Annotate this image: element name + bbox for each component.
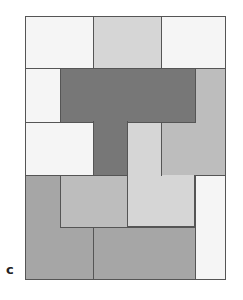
block-dark-t-stem <box>93 121 128 176</box>
block-dark-t-bar-outline <box>60 68 196 123</box>
divider <box>161 122 162 176</box>
block-top-right-white <box>161 16 226 69</box>
block-right-white-strip <box>195 175 226 280</box>
block-top-left-white <box>25 16 94 69</box>
center-lightgray-bottom <box>127 175 195 227</box>
block-left-white-middle <box>25 122 94 176</box>
panel-label: c <box>6 262 14 277</box>
block-top-middle-lightgray <box>93 16 162 69</box>
block-inner-midgray <box>60 175 128 228</box>
block-bottom-center-gray <box>93 227 196 280</box>
block-left-white-column <box>25 68 61 123</box>
